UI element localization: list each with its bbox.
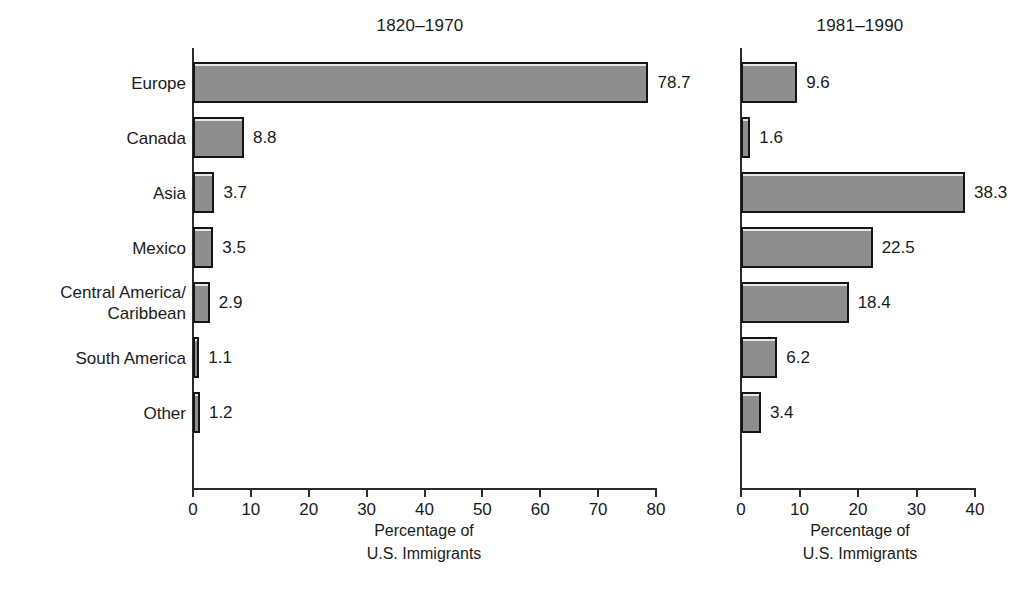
axis-tick-label: 20 <box>849 500 868 520</box>
bar <box>193 282 210 323</box>
bar-value-label: 2.9 <box>219 293 243 313</box>
axis-caption-right: Percentage of U.S. Immigrants <box>730 519 990 565</box>
axis-tick-label: 70 <box>589 500 608 520</box>
bar-value-label: 3.5 <box>222 238 246 258</box>
bar-value-label: 3.7 <box>223 183 247 203</box>
category-label: South America <box>0 347 186 368</box>
axis-tick-label: 10 <box>241 500 260 520</box>
axis-tick <box>799 488 801 497</box>
axis-tick <box>250 488 252 497</box>
axis-tick <box>916 488 918 497</box>
axis-tick <box>597 488 599 497</box>
axis-tick-label: 10 <box>790 500 809 520</box>
chart-panel-1820-1970: 1820–1970 01020304050607080 EuropeCanada… <box>0 0 700 589</box>
panel-title-left: 1820–1970 <box>300 16 540 36</box>
category-label: Asia <box>0 182 186 203</box>
bar <box>193 62 648 103</box>
bar <box>193 337 199 378</box>
category-label: Central America/ Caribbean <box>0 282 186 324</box>
category-label: Other <box>0 402 186 423</box>
axis-caption-left: Percentage of U.S. Immigrants <box>294 519 554 565</box>
axis-tick <box>192 488 194 497</box>
chart-panel-1981-1990: 1981–1990 010203040 9.61.638.322.518.46.… <box>700 0 1031 589</box>
bar-value-label: 1.1 <box>208 348 232 368</box>
category-label: Canada <box>0 127 186 148</box>
axis-tick-label: 0 <box>188 500 197 520</box>
bar-value-label: 78.7 <box>657 73 690 93</box>
axis-tick <box>740 488 742 497</box>
axis-tick-label: 20 <box>299 500 318 520</box>
axis-tick <box>424 488 426 497</box>
bar <box>741 337 777 378</box>
category-label: Europe <box>0 72 186 93</box>
bar <box>741 172 965 213</box>
bar-value-label: 6.2 <box>786 348 810 368</box>
panel-title-right: 1981–1990 <box>740 16 980 36</box>
bar-value-label: 1.2 <box>209 403 233 423</box>
bar <box>741 282 849 323</box>
axis-tick <box>481 488 483 497</box>
axis-tick-label: 80 <box>647 500 666 520</box>
bar <box>193 117 244 158</box>
axis-tick-label: 40 <box>966 500 985 520</box>
category-label: Mexico <box>0 237 186 258</box>
bar <box>741 227 873 268</box>
bar <box>193 227 213 268</box>
bar-value-label: 1.6 <box>759 128 783 148</box>
axis-tick <box>366 488 368 497</box>
axis-tick <box>539 488 541 497</box>
axis-tick-label: 50 <box>473 500 492 520</box>
axis-tick-label: 30 <box>357 500 376 520</box>
axis-tick <box>974 488 976 497</box>
bar-value-label: 3.4 <box>770 403 794 423</box>
bar <box>193 392 200 433</box>
bar <box>741 392 761 433</box>
axis-tick <box>857 488 859 497</box>
bar <box>193 172 214 213</box>
axis-tick-label: 60 <box>531 500 550 520</box>
chart-canvas: 1820–1970 01020304050607080 EuropeCanada… <box>0 0 1031 589</box>
axis-tick-label: 30 <box>907 500 926 520</box>
axis-tick <box>655 488 657 497</box>
axis-tick <box>308 488 310 497</box>
axis-tick-label: 40 <box>415 500 434 520</box>
bar-value-label: 38.3 <box>974 183 1007 203</box>
bar-value-label: 9.6 <box>806 73 830 93</box>
bar <box>741 62 797 103</box>
bar <box>741 117 750 158</box>
bar-value-label: 22.5 <box>882 238 915 258</box>
bar-value-label: 18.4 <box>858 293 891 313</box>
axis-tick-label: 0 <box>736 500 745 520</box>
bar-value-label: 8.8 <box>253 128 277 148</box>
